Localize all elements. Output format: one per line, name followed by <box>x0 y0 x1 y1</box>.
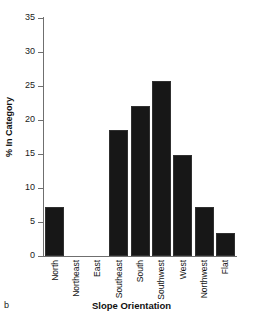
y-tick: 25 <box>38 86 43 87</box>
x-tick-label: Flat <box>216 258 235 304</box>
x-tick-label: North <box>45 258 64 304</box>
x-tick-label: South <box>131 258 150 304</box>
x-tick-label-text: Southeast <box>114 260 123 298</box>
bar <box>45 207 64 256</box>
y-tick: 10 <box>38 188 43 189</box>
y-axis-title: % In Category <box>4 77 14 177</box>
x-tick-label-text: Northeast <box>72 260 81 297</box>
x-axis-line <box>43 256 237 257</box>
bar <box>131 106 150 256</box>
y-tick-label: 10 <box>25 182 35 193</box>
y-tick: 30 <box>38 52 43 53</box>
x-tick-label: Northwest <box>195 258 214 304</box>
clipped-title <box>78 0 198 2</box>
y-tick: 5 <box>38 222 43 223</box>
x-tick-label-text: Southwest <box>157 260 166 300</box>
x-tick-label-text: North <box>50 260 59 281</box>
x-tick-label: Southwest <box>152 258 171 304</box>
y-tick-label: 5 <box>30 216 35 227</box>
figure-panel: 05101520253035 % In Category NorthNorthe… <box>0 0 263 318</box>
panel-letter: b <box>4 300 9 310</box>
y-tick: 0 <box>38 256 43 257</box>
bar-series <box>44 18 236 256</box>
x-tick-label-text: West <box>178 260 187 279</box>
bar <box>109 130 128 256</box>
y-tick-label: 30 <box>25 46 35 57</box>
bar <box>152 81 171 256</box>
y-tick-label: 35 <box>25 12 35 23</box>
bar <box>173 155 192 256</box>
x-tick-label-text: Northwest <box>200 260 209 298</box>
x-tick-label: East <box>88 258 107 304</box>
y-tick-label: 0 <box>30 250 35 261</box>
x-tick-label-text: East <box>93 260 102 277</box>
y-tick: 35 <box>38 18 43 19</box>
bar <box>216 233 235 256</box>
x-axis-tick-labels: NorthNortheastEastSoutheastSouthSouthwes… <box>44 258 236 304</box>
x-axis-title: Slope Orientation <box>0 300 263 311</box>
x-tick-label-text: Flat <box>221 260 230 274</box>
y-tick-label: 25 <box>25 80 35 91</box>
x-tick-label: Southeast <box>109 258 128 304</box>
x-tick-label-text: South <box>136 260 145 282</box>
x-tick-label: West <box>173 258 192 304</box>
y-tick: 15 <box>38 154 43 155</box>
y-tick: 20 <box>38 120 43 121</box>
y-tick-label: 15 <box>25 148 35 159</box>
y-tick-label: 20 <box>25 114 35 125</box>
bar <box>195 207 214 256</box>
x-tick-label: Northeast <box>67 258 86 304</box>
